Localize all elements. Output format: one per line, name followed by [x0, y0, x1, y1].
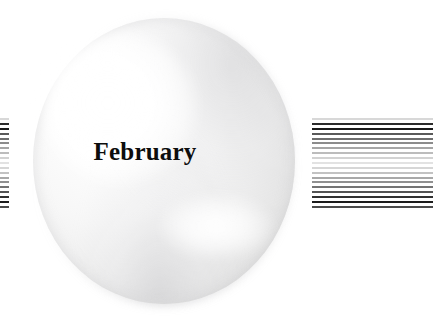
- stripe-line: [312, 128, 433, 130]
- stripe-line: [312, 172, 433, 174]
- stripe-line: [0, 206, 9, 208]
- stripe-line: [312, 152, 433, 154]
- stripe-line: [312, 201, 433, 203]
- stripe-line: [0, 191, 9, 193]
- stripe-line: [312, 123, 433, 125]
- february-button[interactable]: February: [30, 16, 298, 306]
- stripe-line: [0, 172, 9, 174]
- button-bounce-light: [160, 194, 272, 258]
- stripe-line: [312, 167, 433, 169]
- stripe-line: [0, 142, 9, 144]
- stripe-line: [312, 118, 433, 120]
- stripe-line: [0, 123, 9, 125]
- stripe-line: [0, 152, 9, 154]
- stripe-line: [312, 186, 433, 188]
- stripe-line: [312, 191, 433, 193]
- stripe-line: [0, 196, 9, 198]
- image-canvas: February: [0, 0, 435, 332]
- stripe-line: [0, 177, 9, 179]
- stripe-line: [0, 181, 9, 183]
- stripe-line: [0, 133, 9, 135]
- stripe-line: [312, 138, 433, 140]
- button-label: February: [30, 138, 260, 166]
- stripe-line: [0, 186, 9, 188]
- stripe-line: [0, 157, 9, 159]
- stripe-block-left: [0, 118, 9, 208]
- stripe-line: [0, 138, 9, 140]
- stripe-line: [0, 201, 9, 203]
- stripe-block-right: [312, 118, 433, 208]
- stripe-line: [312, 162, 433, 164]
- stripe-line: [0, 162, 9, 164]
- stripe-line: [0, 118, 9, 120]
- stripe-line: [312, 196, 433, 198]
- stripe-line: [312, 177, 433, 179]
- stripe-line: [312, 157, 433, 159]
- stripe-line: [312, 133, 433, 135]
- stripe-line: [0, 128, 9, 130]
- stripe-line: [312, 181, 433, 183]
- stripe-line: [0, 147, 9, 149]
- stripe-line: [0, 167, 9, 169]
- stripe-line: [312, 147, 433, 149]
- stripe-line: [312, 206, 433, 208]
- stripe-line: [312, 142, 433, 144]
